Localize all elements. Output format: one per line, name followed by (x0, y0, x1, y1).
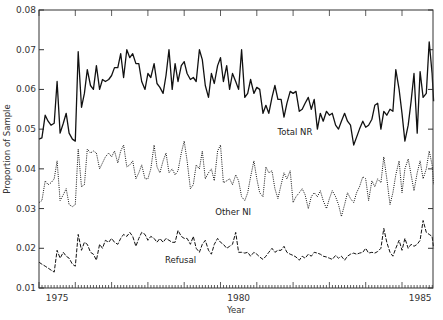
x-axis: 197519801985 (39, 10, 432, 303)
y-tick-label: 0.03 (16, 204, 36, 214)
y-axis-title: Proportion of Sample (2, 104, 12, 193)
y-tick-label: 0.02 (16, 243, 36, 253)
series-total-nr (39, 42, 434, 145)
series-label: Refusal (165, 255, 196, 265)
series-label: Other NI (215, 207, 251, 217)
series-label: Total NR (277, 127, 313, 137)
x-tick-label: 1980 (227, 293, 250, 303)
y-tick-label: 0.07 (16, 45, 36, 55)
y-tick-label: 0.01 (16, 283, 36, 293)
line-chart: 0.010.020.030.040.050.060.070.08 1975198… (0, 0, 443, 320)
series-labels: Total NROther NIRefusal (165, 127, 312, 265)
y-tick-label: 0.05 (16, 124, 36, 134)
x-tick-label: 1975 (46, 293, 69, 303)
x-axis-title: Year (226, 305, 246, 315)
y-tick-label: 0.08 (16, 5, 36, 15)
series-refusal (39, 221, 434, 273)
series-layer (39, 42, 434, 272)
series-other-ni (39, 141, 434, 216)
y-tick-label: 0.06 (16, 84, 36, 94)
x-tick-label: 1985 (409, 293, 432, 303)
y-tick-label: 0.04 (16, 164, 36, 174)
plot-frame (39, 10, 433, 288)
